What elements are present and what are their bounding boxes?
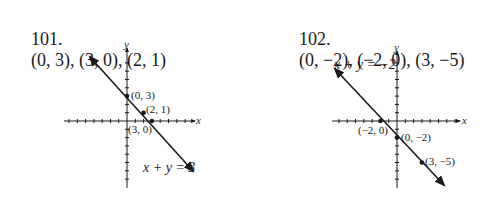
equation-label: x + y = −2 <box>333 57 396 72</box>
point-label: (−2, 0) <box>358 124 388 137</box>
point-0-3 <box>125 94 130 99</box>
y-axis-label: y <box>123 38 129 50</box>
graph-101: x y (0, 3) (2, 1) (3, 0) x + y = 3 <box>64 38 201 188</box>
graphs: x y (0, 3) (2, 1) (3, 0) x + y = 3 x y <box>0 0 503 202</box>
graph-102: x y (−2, 0) (0, −2) (3, −5) x + y = −2 <box>332 41 467 188</box>
point-label: (0, −2) <box>401 131 431 144</box>
point-label: (2, 1) <box>146 103 170 116</box>
point-label: (0, 3) <box>131 89 155 102</box>
line-x-plus-y-eq-neg2 <box>335 69 444 185</box>
line-x-plus-y-eq-3 <box>90 57 193 171</box>
y-axis-label: y <box>393 41 399 53</box>
point-label: (3, 0) <box>128 123 152 136</box>
x-axis-label: x <box>461 114 467 126</box>
point-3-neg5 <box>420 160 425 165</box>
x-axis-label: x <box>195 114 201 126</box>
point-0-neg2 <box>395 135 400 140</box>
equation-label: x + y = 3 <box>142 160 195 175</box>
point-label: (3, −5) <box>425 155 455 168</box>
point-neg2-0 <box>378 119 383 124</box>
